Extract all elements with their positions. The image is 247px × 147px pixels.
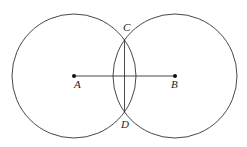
geometry-diagram: A B C D xyxy=(0,0,247,147)
label-d: D xyxy=(120,118,129,130)
label-a: A xyxy=(73,78,81,90)
label-b: B xyxy=(171,78,178,90)
label-c: C xyxy=(123,21,131,33)
